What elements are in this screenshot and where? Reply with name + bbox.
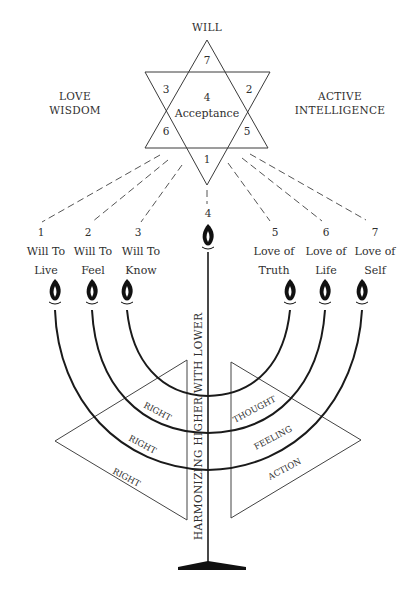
ray-5	[228, 163, 270, 221]
branch-7-line2: Self	[345, 263, 405, 278]
flame-icon	[319, 279, 331, 304]
left-triangle-label-2: RIGHT	[127, 433, 158, 456]
branch-1-number: 1	[31, 225, 51, 240]
active-intelligence-label-line2: INTELLIGENCE	[290, 103, 390, 118]
will-label: WILL	[187, 20, 227, 35]
star-region-3: 3	[156, 82, 176, 97]
flame-icon	[121, 279, 133, 304]
star-center-acceptance: Acceptance	[170, 106, 244, 121]
flame-icon	[49, 279, 61, 304]
branch-2-number: 2	[78, 225, 98, 240]
star-region-4: 4	[197, 90, 217, 105]
branch-7-line1: Love of	[345, 244, 405, 259]
ray-7	[250, 154, 366, 220]
branch-3-number: 3	[128, 225, 148, 240]
ray-2	[92, 160, 168, 222]
flame-icon	[356, 279, 368, 304]
branch-3-line2: Know	[111, 263, 171, 278]
ray-3	[141, 165, 182, 222]
flame-icon	[86, 279, 98, 304]
branch-6-number: 6	[316, 225, 336, 240]
left-triangle-label-1: RIGHT	[142, 400, 173, 423]
branch-5-line2: Truth	[244, 263, 304, 278]
love-wisdom-label-line1: LOVE	[40, 89, 110, 104]
love-wisdom-label-line2: WISDOM	[40, 103, 110, 118]
stem-label: HARMONIZING HIGHER WITH LOWER	[192, 312, 204, 540]
flame-icon	[284, 279, 296, 304]
branch-5-number: 5	[265, 225, 285, 240]
arm-left-middle	[92, 310, 208, 433]
branch-7-number: 7	[365, 225, 385, 240]
star-region-6: 6	[156, 124, 176, 139]
branch-5-line1: Love of	[244, 244, 304, 259]
active-intelligence-label-line1: ACTIVE	[290, 89, 390, 104]
star-region-5: 5	[237, 124, 257, 139]
star-region-2: 2	[239, 82, 259, 97]
star-region-7: 7	[197, 53, 217, 68]
right-triangle-label-1: THOUGHT	[231, 394, 278, 425]
flame-icon	[202, 224, 214, 249]
stem-base	[178, 561, 246, 570]
star-region-1: 1	[197, 152, 217, 167]
ray-1	[42, 155, 160, 222]
branch-4-number: 4	[198, 206, 218, 221]
arm-right-inner	[208, 310, 290, 396]
ray-6	[242, 158, 322, 221]
branch-3-line1: Will To	[111, 244, 171, 259]
